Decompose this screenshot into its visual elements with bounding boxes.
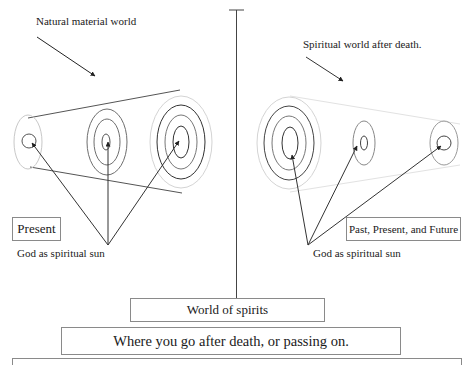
right-sun-large-icon [257, 97, 321, 189]
left-sun-small-icon [14, 115, 42, 169]
after-death-description-box: Where you go after death, or passing on. [61, 327, 401, 355]
world-of-spirits-label: World of spirits [187, 302, 268, 318]
left-sun-medium-icon [87, 109, 127, 175]
natural-world-heading: Natural material world [36, 16, 136, 27]
present-label-box: Present [12, 217, 61, 241]
right-sun-small-icon [430, 121, 458, 165]
present-label: Present [17, 221, 55, 237]
spiritual-world-pointer-arrow [306, 57, 343, 81]
past-present-future-label: Past, Present, and Future [349, 223, 458, 235]
lower-box-border [12, 358, 462, 365]
spiritual-world-heading: Spiritual world after death. [303, 39, 422, 50]
world-of-spirits-box: World of spirits [130, 298, 325, 322]
natural-world-pointer-arrow [37, 37, 95, 76]
central-divider [229, 10, 244, 298]
right-sun-medium-icon [353, 121, 375, 165]
after-death-description-label: Where you go after death, or passing on. [113, 333, 349, 350]
left-god-label: God as spiritual sun [17, 248, 105, 259]
left-sun-large-icon [150, 96, 212, 188]
right-god-label: God as spiritual sun [313, 248, 401, 259]
natural-world-cone [28, 90, 182, 193]
past-present-future-box: Past, Present, and Future [346, 217, 461, 241]
